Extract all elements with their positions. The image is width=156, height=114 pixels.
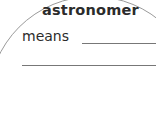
answer-line-1[interactable] xyxy=(82,43,156,44)
answer-line-2[interactable] xyxy=(22,65,156,66)
means-label: means xyxy=(22,28,69,44)
vocabulary-term: astronomer xyxy=(42,2,139,18)
